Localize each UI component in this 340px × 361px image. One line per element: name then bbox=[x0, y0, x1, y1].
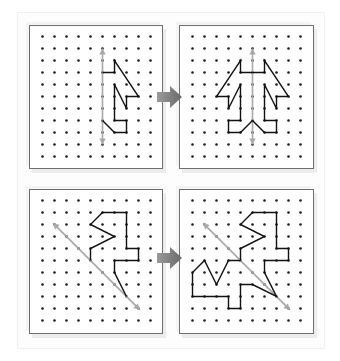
panel-vertical-after: completed symmetric shape bbox=[179, 25, 314, 169]
arrowhead-icon bbox=[99, 49, 105, 55]
panel-vertical-before: original shape bbox=[29, 25, 163, 169]
right-arrow-icon bbox=[157, 247, 183, 269]
panel-diagonal-before: original shape bbox=[29, 189, 163, 334]
dot-grid-diagram bbox=[30, 190, 164, 335]
mirror-line-axis bbox=[99, 49, 105, 145]
arrowhead-icon bbox=[249, 49, 255, 55]
right-arrow-icon bbox=[157, 86, 183, 108]
mirror-line-axis bbox=[249, 49, 255, 145]
arrowhead-icon bbox=[249, 139, 255, 145]
arrowhead-icon bbox=[99, 139, 105, 145]
dot-grid-diagram bbox=[30, 26, 164, 170]
dot-grid-diagram bbox=[180, 26, 315, 170]
shape-outline bbox=[103, 61, 139, 133]
panel-diagonal-after: completed symmetric shape bbox=[179, 189, 314, 334]
dot-grid-diagram bbox=[180, 190, 315, 335]
